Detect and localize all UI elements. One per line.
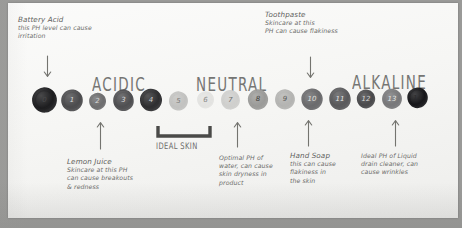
annotation-body: this can cause flakiness in the skin — [290, 160, 370, 185]
ph-blob-13: 13 — [380, 86, 404, 112]
ph-blob-7: 7 — [219, 88, 241, 111]
arrow-battery-acid — [42, 55, 53, 77]
ph-blob-number: 7 — [220, 89, 241, 111]
arrow-water — [232, 122, 243, 148]
annotation-drain-cleaner: Ideal PH of Liquid drain cleaner, can ca… — [361, 152, 456, 177]
ph-blob-number: 4 — [139, 87, 163, 113]
annotation-title: Toothpaste — [265, 11, 380, 19]
whiteboard-photo: ACIDIC NEUTRAL ALKALINE 0123456789101112… — [0, 0, 462, 228]
annotation-water: Optimal PH of water, can cause skin dryn… — [219, 154, 294, 187]
ph-blob-9: 9 — [273, 87, 297, 112]
ph-blob-number: 14 — [406, 85, 429, 111]
arrow-toothpaste — [305, 56, 316, 78]
ph-blob-12: 12 — [355, 87, 376, 110]
ph-blob-14: 14 — [405, 84, 430, 112]
ph-blob-number: 2 — [88, 92, 107, 111]
ph-blob-6: 6 — [195, 89, 216, 111]
annotation-body: this PH level can cause irritation — [18, 24, 148, 40]
ph-blob-5: 5 — [167, 89, 189, 112]
ph-blob-3: 3 — [111, 87, 137, 115]
ph-blob-2: 2 — [88, 92, 108, 112]
arrow-lemon-juice — [95, 122, 106, 150]
ph-blob-0: 0 — [30, 85, 60, 116]
ph-blob-number: 13 — [381, 87, 403, 111]
annotation-toothpaste: ToothpasteSkincare at this PH can cause … — [265, 11, 380, 36]
annotation-lemon-juice: Lemon JuiceSkincare at this PH can cause… — [67, 158, 172, 191]
ph-blob-4: 4 — [138, 86, 164, 114]
ph-blob-number: 5 — [168, 90, 189, 112]
ideal-skin-label: IDEAL SKIN — [156, 141, 198, 152]
ph-blob-number: 6 — [196, 90, 215, 110]
ph-blob-number: 12 — [356, 88, 376, 110]
annotation-battery-acid: Battery Acidthis PH level can cause irri… — [18, 16, 148, 41]
ph-blob-number: 1 — [60, 88, 84, 113]
ph-blob-number: 9 — [274, 88, 296, 111]
ph-blob-number: 11 — [328, 86, 352, 112]
annotation-title: Battery Acid — [18, 16, 148, 24]
arrow-drain-cleaner — [390, 120, 401, 147]
ideal-skin-bracket — [155, 126, 213, 140]
annotation-body: Skincare at this PH can cause breakouts … — [67, 166, 172, 191]
ph-blob-8: 8 — [246, 87, 270, 111]
annotation-body: Ideal PH of Liquid drain cleaner, can ca… — [361, 152, 456, 177]
arrow-hand-soap — [303, 120, 314, 147]
annotation-title: Lemon Juice — [67, 158, 172, 166]
annotation-body: Skincare at this PH can cause flakiness — [265, 19, 380, 35]
ph-blob-11: 11 — [327, 85, 353, 113]
annotation-title: Hand Soap — [290, 152, 370, 160]
ph-blob-10: 10 — [299, 86, 325, 113]
annotation-hand-soap: Hand Soapthis can cause flakiness in the… — [290, 152, 370, 185]
ph-blob-number: 10 — [300, 87, 324, 112]
annotation-body: Optimal PH of water, can cause skin dryn… — [219, 154, 294, 187]
ph-blob-1: 1 — [59, 87, 85, 114]
ph-blob-number: 3 — [112, 88, 135, 113]
ph-blob-number: 0 — [31, 86, 58, 114]
ph-blob-number: 8 — [247, 88, 269, 111]
